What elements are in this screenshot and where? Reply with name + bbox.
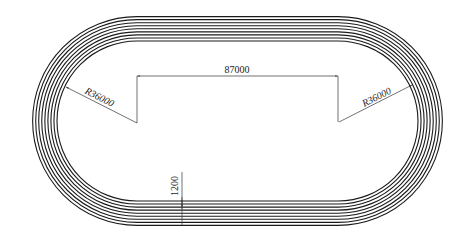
lane-line <box>45 29 430 213</box>
left-radius-label: R36000 <box>82 84 116 108</box>
lane-line <box>54 38 421 204</box>
straight-length-dimension <box>137 76 338 123</box>
track-drawing: 87000 R36000 R36000 1200 <box>0 0 470 242</box>
straight-length-label: 87000 <box>225 64 250 75</box>
lane-line <box>36 20 440 223</box>
lane-line <box>42 26 434 217</box>
lane-line <box>39 23 437 220</box>
lane-line <box>51 35 424 207</box>
lane-line <box>33 17 443 226</box>
right-radius-label: R36000 <box>359 85 393 109</box>
lane-line <box>48 32 427 210</box>
track-lane-lines <box>33 17 443 226</box>
lane-width-label: 1200 <box>169 176 180 196</box>
